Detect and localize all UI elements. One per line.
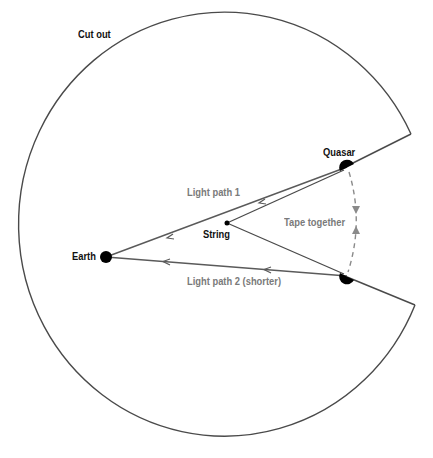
tape-together-label: Tape together: [284, 217, 345, 228]
light-path-2-label: Light path 2 (shorter): [187, 276, 281, 287]
cut-out-label: Cut out: [78, 29, 111, 40]
earth-dot: [100, 251, 112, 263]
quasar-label: Quasar: [323, 147, 355, 158]
tape-arrow-up-icon: [352, 226, 360, 234]
string-to-image-line: [227, 223, 344, 274]
cutout-diagram: Cut out Quasar Light path 1 String Tape …: [0, 0, 433, 458]
quasar-dot: [339, 160, 354, 171]
tape-together-dashed-arc: [348, 172, 356, 272]
light-path-1-label: Light path 1: [187, 187, 240, 198]
cutout-outline: [19, 12, 415, 436]
string-label: String: [203, 229, 230, 240]
upper-cut-edge: [347, 134, 411, 166]
string-dot: [225, 221, 230, 226]
tape-arrow-down-icon: [352, 206, 360, 214]
light-path-1-line: [106, 167, 347, 257]
earth-label: Earth: [72, 251, 96, 262]
lower-cut-edge: [347, 277, 415, 305]
